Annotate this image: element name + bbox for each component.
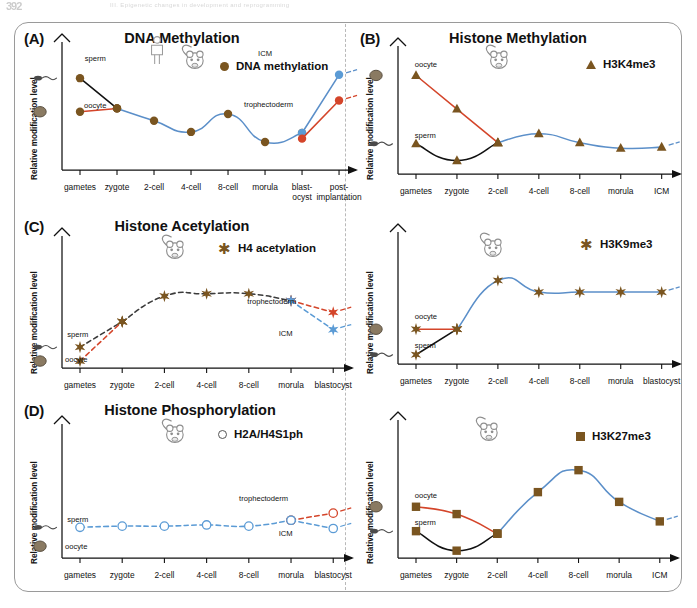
x-tick-label: 4-cell <box>197 380 217 390</box>
data-point <box>329 524 337 532</box>
x-tick-label: blastocyst <box>315 570 353 580</box>
series-line <box>291 301 333 330</box>
x-tick-label: blast- <box>292 182 313 192</box>
x-tick-label: morula <box>278 570 304 580</box>
oocyte-icon <box>34 356 46 366</box>
oocyte-icon <box>370 70 382 80</box>
annotation-oocyte: oocyte <box>415 491 437 500</box>
x-tick-label: morula <box>608 376 634 386</box>
x-tick-label: gametes <box>64 570 96 580</box>
panel-e-plot: gameteszygote2-cell4-cell8-cellmorulabla… <box>358 216 676 394</box>
panel-divider <box>345 24 346 590</box>
sperm-icon <box>370 529 393 534</box>
data-point <box>574 466 582 474</box>
series-line <box>457 278 662 330</box>
oocyte-icon <box>34 107 46 117</box>
x-tick-label: 2-cell <box>487 570 507 580</box>
annotation-oocyte: oocyte <box>65 355 87 364</box>
panel-b-plot: gameteszygote2-cell4-cell8-cellmorulaICM… <box>358 28 676 206</box>
data-point <box>202 521 210 529</box>
data-point <box>76 523 84 531</box>
data-point <box>187 128 195 136</box>
x-tick-label: morula <box>252 182 278 192</box>
data-point <box>118 522 126 530</box>
page-number: 392 <box>6 0 21 12</box>
data-point <box>452 104 462 113</box>
series-line <box>291 520 333 528</box>
x-tick-label: gametes <box>400 376 432 386</box>
mouse-icon <box>162 419 183 442</box>
data-point <box>328 324 339 336</box>
mouse-icon <box>162 235 183 258</box>
x-tick-label: 8-cell <box>239 380 259 390</box>
panel-f: H3K27me3 Relative modification level gam… <box>358 400 676 586</box>
data-point <box>411 70 421 79</box>
x-tick-label: 2-cell <box>488 186 508 196</box>
sperm-icon <box>34 525 57 530</box>
x-tick-label: 8-cell <box>570 376 590 386</box>
annotation-sperm: sperm <box>67 330 88 339</box>
series-line <box>497 470 660 534</box>
x-tick-label: zygote <box>110 380 135 390</box>
panel-c: (C) Histone Acetylation ✱ H4 acetylation… <box>22 216 344 394</box>
sperm-icon <box>370 352 393 357</box>
data-point <box>159 290 170 302</box>
data-point <box>150 117 158 125</box>
page-header-artifact: 392 III. Epigenetic changes in developme… <box>0 0 697 16</box>
x-tick-label: 8-cell <box>218 182 238 192</box>
annotation-sperm: sperm <box>415 518 436 527</box>
x-tick-label: zygote <box>105 182 130 192</box>
x-tick-label: morula <box>608 186 634 196</box>
panel-a: (A) DNA Methylation DNA methylation Rela… <box>22 28 344 206</box>
x-tick-label: 2-cell <box>154 570 174 580</box>
x-tick-label: morula <box>278 380 304 390</box>
x-tick-label: gametes <box>400 186 432 196</box>
series-line <box>302 75 339 133</box>
x-tick-label: 8-cell <box>239 570 259 580</box>
oocyte-icon <box>370 324 382 334</box>
x-tick-label: morula <box>606 570 632 580</box>
x-tick-label: ICM <box>654 186 669 196</box>
annotation-sperm: sperm <box>85 54 106 63</box>
oocyte-icon <box>34 541 46 551</box>
x-tick-label: blastocyst <box>315 380 353 390</box>
annotation-trophectoderm: trophectoderm <box>247 297 296 306</box>
data-point <box>113 104 121 112</box>
data-point <box>452 510 460 518</box>
data-point <box>261 138 269 146</box>
mouse-icon <box>476 417 497 440</box>
data-point <box>298 134 306 142</box>
annotation-ICM: ICM <box>279 329 293 338</box>
annotation-sperm: sperm <box>415 341 436 350</box>
x-tick-label: gametes <box>400 570 432 580</box>
data-point <box>335 96 343 104</box>
x-tick-label: zygote <box>110 570 135 580</box>
annotation-oocyte: oocyte <box>65 542 87 551</box>
running-head: III. Epigenetic changes in development a… <box>110 2 290 8</box>
annotation-oocyte: oocyte <box>84 101 106 110</box>
panel-d: (D) Histone Phosphorylation H2A/H4S1ph R… <box>22 400 344 586</box>
x-tick-label: 8-cell <box>570 186 590 196</box>
x-tick-label: 2-cell <box>144 182 164 192</box>
x-tick-label: 2-cell <box>488 376 508 386</box>
annotation-sperm: sperm <box>67 515 88 524</box>
data-point <box>328 306 339 318</box>
data-point <box>452 546 460 554</box>
annotation-trophectoderm: trophectoderm <box>244 100 293 109</box>
series-line <box>117 108 302 143</box>
series-line <box>291 513 333 520</box>
x-tick-label: ocyst <box>292 192 312 202</box>
x-tick-label: zygote <box>445 186 470 196</box>
annotation-oocyte: oocyte <box>415 60 437 69</box>
data-point <box>411 349 422 361</box>
data-point <box>245 522 253 530</box>
x-tick-label: gametes <box>64 380 96 390</box>
x-tick-label: zygote <box>444 570 469 580</box>
data-point <box>615 498 623 506</box>
x-tick-label: implantation <box>316 192 362 202</box>
x-tick-label: 4-cell <box>529 376 549 386</box>
x-tick-label: blastocyst <box>643 376 681 386</box>
x-tick-label: post- <box>330 182 349 192</box>
sperm-icon <box>34 345 57 350</box>
x-tick-label: 8-cell <box>569 570 589 580</box>
